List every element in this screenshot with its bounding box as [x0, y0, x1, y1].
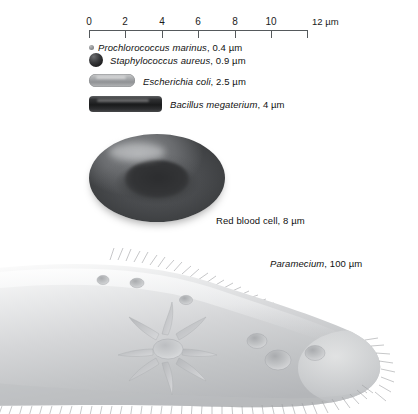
- prochlorococcus-marinus-cell: [89, 45, 94, 50]
- escherichia-coli-cell: [89, 74, 135, 87]
- scale-tick-label-6: 6: [195, 16, 201, 27]
- scale-tick-4: [162, 30, 163, 38]
- scale-tick-12: [307, 30, 308, 38]
- prochlorococcus-genus-text: Prochlorococcus marinus: [98, 42, 207, 53]
- bacillus-megaterium-label: Bacillus megaterium, 4 µm: [170, 99, 285, 110]
- red-blood-cell-dimple: [125, 160, 189, 198]
- paramecium-size-text: , 100 µm: [324, 258, 362, 269]
- scale-tick-0: [89, 30, 90, 38]
- scale-tick-label-8: 8: [232, 16, 238, 27]
- vacuole-food-3: [305, 346, 325, 361]
- ecoli-size-text: , 2.5 µm: [211, 76, 246, 87]
- scale-unit-label: 12 µm: [312, 16, 339, 27]
- figure-canvas: 0 2 4 6 8 10 12 µm Prochlorococcus marin…: [0, 0, 418, 414]
- bacillus-genus-text: Bacillus megaterium: [170, 99, 257, 110]
- escherichia-coli-label: Escherichia coli, 2.5 µm: [143, 76, 246, 87]
- paramecium-cell: [0, 228, 418, 414]
- staphylococcus-aureus-label: Staphylococcus aureus, 0.9 µm: [110, 55, 246, 66]
- red-blood-cell-label: Red blood cell, 8 µm: [216, 215, 305, 226]
- staphylococcus-size-text: , 0.9 µm: [210, 55, 245, 66]
- vacuole-small-1: [97, 275, 109, 284]
- contractile-vacuole-center: [153, 339, 183, 359]
- bacillus-megaterium-cell: [89, 96, 162, 112]
- paramecium-label: Paramecium, 100 µm: [270, 258, 362, 269]
- scale-tick-label-2: 2: [122, 16, 128, 27]
- vacuole-small-3: [180, 295, 193, 304]
- scale-tick-label-10: 10: [265, 16, 276, 27]
- bacillus-size-text: , 4 µm: [257, 99, 284, 110]
- vacuole-food-1: [247, 334, 267, 349]
- scale-tick-2: [125, 30, 126, 38]
- scale-tick-label-0: 0: [86, 16, 92, 27]
- scale-tick-6: [198, 30, 199, 38]
- prochlorococcus-size-text: , 0.4 µm: [207, 42, 242, 53]
- scale-tick-8: [235, 30, 236, 38]
- staphylococcus-genus-text: Staphylococcus aureus: [110, 55, 210, 66]
- red-blood-cell-highlight: [109, 143, 165, 161]
- vacuole-small-2: [130, 278, 144, 288]
- scale-tick-10: [271, 30, 272, 38]
- prochlorococcus-marinus-label: Prochlorococcus marinus, 0.4 µm: [98, 42, 242, 53]
- red-blood-cell: [89, 134, 225, 222]
- staphylococcus-aureus-cell: [89, 53, 103, 67]
- scale-tick-label-4: 4: [159, 16, 165, 27]
- paramecium-genus-text: Paramecium: [270, 258, 324, 269]
- vacuole-food-2: [265, 350, 291, 370]
- ecoli-genus-text: Escherichia coli: [143, 76, 211, 87]
- scale-bar: [89, 30, 308, 39]
